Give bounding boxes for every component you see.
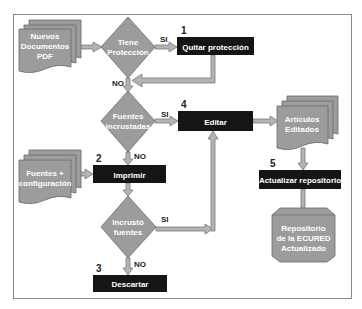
step-number-5: 5: [270, 158, 276, 169]
decision2-no-label: NO: [134, 152, 146, 161]
arrow-articulos-to-actualizar: [298, 148, 308, 170]
arrow-decision3-no: [123, 258, 133, 275]
decision1-line-2: Protección: [107, 48, 148, 57]
output-repositorio: Repositorio de la ECURED Actualizado: [272, 208, 335, 262]
decision1-line-1: Tiene: [118, 38, 139, 47]
decision1-yes-label: SI: [160, 35, 168, 44]
arrow-decision3-yes: [156, 224, 213, 234]
decision3-line-1: Incrustó: [112, 218, 144, 227]
nuevos-line-3: PDF: [37, 52, 53, 61]
arrow-decision2-no: [123, 152, 133, 165]
input-fuentes-configuracion: Fuentes + configuración: [19, 150, 81, 204]
decision3-yes-label: SI: [161, 215, 169, 224]
fuentes-line-2: configuración: [19, 179, 72, 188]
imprimir-label: Imprimir: [113, 171, 145, 180]
decision-fuentes-incrustadas: Fuentes incrustadas SI NO: [101, 91, 169, 161]
decision2-line-1: Fuentes: [113, 112, 144, 121]
fuentes-line-1: Fuentes +: [26, 169, 64, 178]
arrow-imprimir-to-decision3: [123, 183, 133, 196]
articulos-line-2: Editados: [285, 125, 319, 134]
decision3-line-2: fuentes: [114, 228, 143, 237]
decision2-yes-label: SI: [161, 110, 169, 119]
input-nuevos-documentos: Nuevos Documentos PDF: [19, 20, 81, 73]
descartar-label: Descartar: [112, 280, 149, 289]
step-number-2: 2: [96, 153, 102, 164]
decision3-no-label: NO: [134, 260, 146, 269]
diamond-shape: [101, 196, 156, 258]
step-number-3: 3: [96, 263, 102, 274]
arrow-quitar-loopback: [132, 55, 215, 87]
process-quitar-proteccion: 1 Quitar protección: [177, 25, 254, 55]
quitar-proteccion-label: Quitar protección: [182, 43, 249, 52]
process-editar: 4 Editar: [178, 99, 253, 131]
decision-tiene-proteccion: Tiene Protección SI NO: [101, 17, 168, 88]
step-number-1: 1: [181, 25, 187, 36]
flowchart: Nuevos Documentos PDF Tiene Protección S…: [0, 0, 362, 309]
actualizar-label: Actualizar repositorio: [259, 176, 341, 185]
editar-label: Editar: [204, 118, 227, 127]
repositorio-line-1: Repositorio: [281, 224, 326, 233]
decision1-no-label: NO: [112, 79, 124, 88]
decision2-line-2: incrustadas: [106, 122, 151, 131]
nuevos-line-1: Nuevos: [31, 32, 60, 41]
arrow-editar-to-articulos: [253, 116, 278, 126]
decision-incrusto-fuentes: Incrustó fuentes SI NO: [101, 196, 169, 269]
output-articulos-editados: Artículos Editados: [277, 96, 338, 150]
arrow-decision1-no: [123, 78, 133, 92]
nuevos-line-2: Documentos: [21, 42, 70, 51]
step-number-4: 4: [181, 99, 187, 110]
repositorio-line-3: Actualizado: [281, 244, 326, 253]
articulos-line-1: Artículos: [285, 115, 320, 124]
repositorio-line-2: de la ECURED: [276, 234, 330, 243]
arrow-up-to-editar: [208, 131, 218, 231]
